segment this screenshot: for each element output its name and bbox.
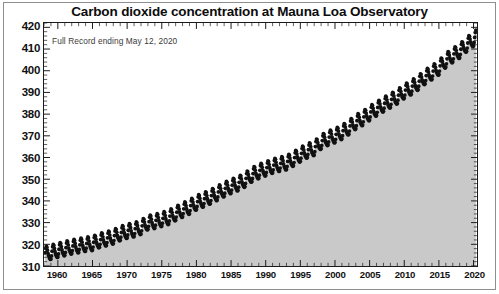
- x-tick-1960: 1960: [47, 269, 68, 280]
- record-annotation: Full Record ending May 12, 2020: [52, 36, 177, 46]
- x-tick-1995: 1995: [290, 269, 311, 280]
- y-tick-320: 320: [0, 239, 40, 251]
- y-tick-400: 400: [0, 64, 40, 76]
- x-tick-1985: 1985: [221, 269, 242, 280]
- figure-container: Carbon dioxide concentration at Mauna Lo…: [0, 0, 499, 294]
- x-tick-2020: 2020: [464, 269, 485, 280]
- x-tick-2000: 2000: [325, 269, 346, 280]
- y-tick-380: 380: [0, 108, 40, 120]
- x-axis-labels: 1960196519701975198019851990199520002005…: [43, 268, 478, 286]
- x-tick-1965: 1965: [81, 269, 102, 280]
- y-tick-350: 350: [0, 174, 40, 186]
- co2-scatter-plot: [44, 23, 477, 266]
- y-tick-390: 390: [0, 86, 40, 98]
- y-tick-310: 310: [0, 261, 40, 273]
- y-tick-420: 420: [0, 20, 40, 32]
- y-tick-370: 370: [0, 130, 40, 142]
- plot-area: Full Record ending May 12, 2020 SCRIPPS …: [43, 22, 478, 267]
- y-tick-330: 330: [0, 217, 40, 229]
- y-tick-360: 360: [0, 152, 40, 164]
- y-tick-410: 410: [0, 42, 40, 54]
- y-tick-340: 340: [0, 195, 40, 207]
- x-tick-1970: 1970: [116, 269, 137, 280]
- chart-title: Carbon dioxide concentration at Mauna Lo…: [0, 4, 499, 19]
- x-tick-2005: 2005: [360, 269, 381, 280]
- scripps-oceanography-logo: SCRIPPS INSTITUTION OF OCEANOGRAPHY UC S…: [440, 266, 478, 267]
- y-axis-labels: 310320330340350360370380390400410420: [0, 22, 40, 267]
- x-tick-1980: 1980: [186, 269, 207, 280]
- x-tick-1975: 1975: [151, 269, 172, 280]
- x-tick-2010: 2010: [395, 269, 416, 280]
- x-tick-1990: 1990: [255, 269, 276, 280]
- x-tick-2015: 2015: [429, 269, 450, 280]
